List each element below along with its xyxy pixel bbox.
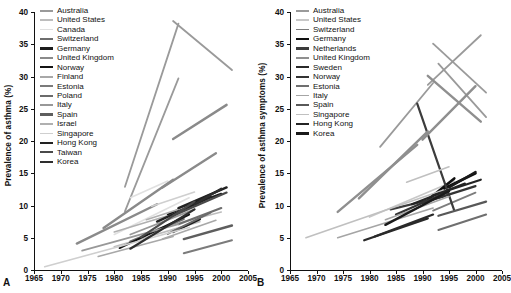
legend-color-swatch: [296, 85, 309, 87]
legend-color-swatch: [40, 113, 53, 115]
legend-color-swatch: [296, 38, 309, 41]
legend-item: Finland: [40, 72, 114, 81]
y-tick-label: 10: [264, 201, 284, 210]
series-line: [173, 21, 232, 70]
x-tick-label: 1965: [25, 274, 43, 283]
legend-color-swatch: [40, 47, 53, 49]
y-tick-label: 15: [264, 169, 284, 178]
legend-label: Australia: [313, 6, 344, 15]
series-line: [438, 215, 486, 230]
legend-item: Australia: [40, 6, 114, 15]
legend-label: Norway: [313, 72, 340, 81]
y-tick-label: 10: [8, 201, 28, 210]
legend-item: Estonia: [296, 82, 370, 91]
legend-item: Germany: [40, 44, 114, 53]
legend-color-swatch: [296, 47, 309, 49]
legend-item: Poland: [40, 91, 114, 100]
x-tick-label: 1970: [52, 274, 70, 283]
y-tick-label: 35: [8, 40, 28, 49]
legend-label: Switzerland: [57, 34, 98, 43]
series-line: [306, 190, 444, 238]
legend-label: United States: [57, 15, 105, 24]
legend-item: Italy: [40, 100, 114, 109]
panel-a-legend: AustraliaUnited StatesCanadaSwitzerlandG…: [40, 6, 114, 166]
y-tick-label: 30: [8, 72, 28, 81]
panel-b-legend: AustraliaUnited StatesSwitzerlandGermany…: [296, 6, 370, 138]
legend-label: Taiwan: [57, 148, 82, 157]
panel-b-letter: B: [257, 277, 264, 288]
series-line: [359, 131, 428, 198]
legend-label: Netherlands: [313, 44, 356, 53]
legend-color-swatch: [40, 76, 53, 78]
legend-label: Israel: [57, 119, 77, 128]
legend-color-swatch: [296, 57, 309, 59]
x-tick-label: 2000: [466, 274, 484, 283]
series-line: [438, 202, 486, 216]
legend-label: Finland: [57, 72, 83, 81]
y-tick-label: 40: [264, 8, 284, 17]
x-tick-label: 1990: [159, 274, 177, 283]
legend-label: Australia: [57, 6, 88, 15]
legend-item: Switzerland: [296, 25, 370, 34]
legend-color-swatch: [40, 151, 53, 153]
x-tick-label: 1980: [105, 274, 123, 283]
y-tick-label: 5: [8, 233, 28, 242]
x-tick-label: 1990: [413, 274, 431, 283]
legend-label: Norway: [57, 63, 84, 72]
y-tick-label: 15: [8, 169, 28, 178]
legend-color-swatch: [40, 19, 53, 21]
legend-color-swatch: [296, 19, 309, 21]
legend-item: Norway: [40, 63, 114, 72]
legend-label: Switzerland: [313, 25, 354, 34]
x-tick-label: 2005: [493, 274, 511, 283]
legend-item: United States: [296, 15, 370, 24]
legend-item: Spain: [296, 100, 370, 109]
legend-color-swatch: [296, 114, 309, 116]
legend-label: Spain: [313, 100, 333, 109]
legend-item: Canada: [40, 25, 114, 34]
legend-label: Hong Kong: [57, 138, 97, 147]
legend-item: Taiwan: [40, 148, 114, 157]
legend-item: United Kingdom: [296, 53, 370, 62]
legend-label: Spain: [57, 110, 77, 119]
x-tick-label: 1995: [440, 274, 458, 283]
legend-label: Singapore: [57, 129, 93, 138]
legend-color-swatch: [40, 104, 53, 106]
series-line: [125, 78, 179, 211]
legend-color-swatch: [40, 38, 53, 40]
legend-label: Germany: [313, 34, 346, 43]
legend-color-swatch: [40, 161, 53, 163]
legend-label: Hong Kong: [313, 119, 353, 128]
legend-label: United Kingdom: [313, 53, 370, 62]
legend-color-swatch: [296, 66, 309, 68]
y-tick-label: 30: [264, 72, 284, 81]
legend-item: Spain: [40, 110, 114, 119]
legend-item: Korea: [296, 129, 370, 138]
legend-item: Germany: [296, 34, 370, 43]
x-tick-label: 2000: [212, 274, 230, 283]
x-tick-label: 1995: [185, 274, 203, 283]
y-tick-label: 5: [264, 233, 284, 242]
legend-item: Sweden: [296, 63, 370, 72]
legend-label: Singapore: [313, 110, 349, 119]
legend-item: United States: [40, 15, 114, 24]
legend-color-swatch: [296, 104, 309, 106]
legend-color-swatch: [296, 29, 309, 31]
legend-item: Switzerland: [40, 34, 114, 43]
legend-item: Hong Kong: [296, 119, 370, 128]
y-tick-label: 20: [8, 137, 28, 146]
series-line: [433, 44, 486, 93]
legend-color-swatch: [40, 29, 53, 31]
x-tick-label: 1975: [334, 274, 352, 283]
legend-item: Singapore: [296, 110, 370, 119]
y-tick-label: 35: [264, 40, 284, 49]
legend-label: Italy: [57, 100, 72, 109]
legend-color-swatch: [40, 66, 53, 68]
series-line: [125, 24, 179, 187]
x-tick-label: 1975: [78, 274, 96, 283]
legend-color-swatch: [40, 57, 53, 59]
legend-label: United Kingdom: [57, 53, 114, 62]
y-tick-label: 25: [8, 104, 28, 113]
series-line: [428, 35, 481, 85]
